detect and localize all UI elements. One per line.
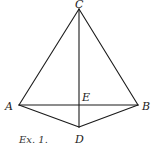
point-label-a: A [4,100,13,113]
point-label-e: E [81,91,90,104]
figure-caption: Ex. 1. [18,134,48,145]
point-label-d: D [74,133,84,145]
point-label-b: B [141,100,150,113]
segment-ca [19,9,79,105]
point-label-c: C [75,0,84,11]
segment-bd [79,105,138,127]
geometry-diagram: C A B E D Ex. 1. [0,0,155,145]
segment-ad [19,105,79,127]
